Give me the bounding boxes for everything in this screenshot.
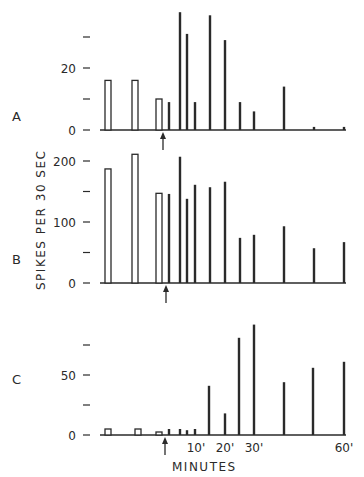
y-tick-label: 200 [53, 155, 76, 169]
solid-bar [253, 325, 255, 435]
solid-bar [343, 242, 345, 283]
solid-bar [253, 235, 255, 283]
y-tick-label: 100 [53, 216, 76, 230]
open-bar [156, 99, 162, 130]
x-tick-label: 10' [187, 441, 206, 455]
panel-b-label: B [12, 252, 21, 267]
solid-bar [194, 102, 196, 130]
open-bar [105, 80, 111, 130]
open-bar [105, 429, 111, 435]
solid-bar [283, 226, 285, 283]
panel-c: 05010'20'30'60' [61, 325, 354, 455]
solid-bar [343, 127, 345, 130]
solid-bar [209, 15, 211, 130]
solid-bar [224, 40, 226, 130]
solid-bar [343, 362, 345, 435]
solid-bar [238, 338, 240, 435]
solid-bar [239, 238, 241, 283]
solid-bar [186, 199, 188, 283]
open-bar [132, 80, 138, 130]
solid-bar [313, 248, 315, 283]
solid-bar [194, 185, 196, 283]
y-tick-label: 0 [68, 124, 76, 138]
solid-bar [179, 429, 181, 435]
open-bar [105, 169, 111, 283]
panel-a-label: A [12, 109, 21, 124]
y-tick-label: 50 [61, 369, 76, 383]
solid-bar [186, 34, 188, 130]
open-bar [156, 432, 162, 435]
x-tick-label: 60' [335, 441, 354, 455]
solid-bar [239, 102, 241, 130]
solid-bar [168, 194, 170, 283]
panel-b: 0100200 [53, 154, 346, 303]
panel-a: 020 [61, 12, 346, 150]
solid-bar [208, 386, 210, 435]
y-axis-label: SPIKES PER 30 SEC [34, 150, 48, 290]
solid-bar [253, 111, 255, 130]
solid-bar [168, 102, 170, 130]
y-tick-label: 0 [68, 277, 76, 291]
solid-bar [283, 87, 285, 130]
open-bar [132, 154, 138, 283]
x-axis-label: MINUTES [172, 460, 237, 474]
solid-bar [209, 187, 211, 283]
figure: 020 0100200 05010'20'30'60' A B C SPIKES… [0, 0, 364, 477]
arrow-up-icon [163, 285, 169, 292]
solid-bar [313, 127, 315, 130]
x-tick-label: 30' [245, 441, 264, 455]
solid-bar [168, 429, 170, 435]
open-bar [135, 429, 141, 435]
solid-bar [224, 413, 226, 435]
solid-bar [179, 12, 181, 130]
solid-bar [194, 429, 196, 435]
panel-c-label: C [12, 372, 21, 387]
arrow-up-icon [160, 132, 166, 139]
solid-bar [312, 368, 314, 435]
open-bar [156, 193, 162, 283]
arrow-up-icon [162, 437, 168, 444]
solid-bar [179, 157, 181, 283]
y-tick-label: 20 [61, 62, 76, 76]
y-tick-label: 0 [68, 429, 76, 443]
solid-bar [224, 182, 226, 283]
x-tick-label: 20' [216, 441, 235, 455]
solid-bar [186, 430, 188, 435]
solid-bar [283, 382, 285, 435]
